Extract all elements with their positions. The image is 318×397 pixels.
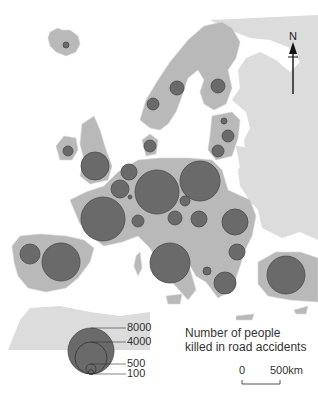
north-label: N xyxy=(289,30,297,42)
circle-luxembourg xyxy=(128,195,132,199)
circle-ireland xyxy=(63,146,73,156)
scale-start-label: 0 xyxy=(239,364,245,376)
circle-germany xyxy=(135,170,179,214)
legend-title: Number of people killed in road accident… xyxy=(185,326,318,354)
circle-belgium xyxy=(111,180,129,198)
circle-austria xyxy=(168,211,182,225)
circle-lithuania xyxy=(212,145,224,157)
circle-finland xyxy=(211,79,225,93)
circle-greece xyxy=(214,272,236,294)
circle-czech-republic xyxy=(180,196,190,206)
circle-latvia xyxy=(222,130,234,142)
scale-end-label: 500km xyxy=(270,364,303,376)
circle-netherlands xyxy=(121,164,137,180)
circle-france xyxy=(81,197,125,241)
circle-denmark xyxy=(144,140,156,152)
scale-end-value: 500 xyxy=(270,364,288,376)
circle-united-kingdom xyxy=(81,152,109,180)
legend-value-8000: 8000 xyxy=(127,322,151,333)
circle-switzerland xyxy=(132,215,144,227)
circle-bulgaria xyxy=(229,244,245,260)
circle-portugal xyxy=(20,244,40,264)
circle-iceland xyxy=(63,42,69,48)
circle-spain xyxy=(42,243,80,281)
circle-hungary xyxy=(191,211,207,227)
scale-unit: km xyxy=(288,364,303,376)
scale-bar xyxy=(242,380,280,384)
legend-value-4000: 4000 xyxy=(127,336,151,347)
legend-title-line2: killed in road accidents xyxy=(185,340,318,354)
circle-turkey xyxy=(267,256,305,294)
legend-value-100: 100 xyxy=(127,368,145,379)
circle-macedonia xyxy=(203,267,211,275)
circle-italy xyxy=(150,243,190,283)
circle-estonia xyxy=(221,118,227,124)
legend-title-line1: Number of people xyxy=(185,326,318,340)
circle-romania xyxy=(222,209,248,235)
circle-poland xyxy=(180,161,220,201)
circle-norway xyxy=(147,98,159,110)
circle-sweden xyxy=(170,81,184,95)
